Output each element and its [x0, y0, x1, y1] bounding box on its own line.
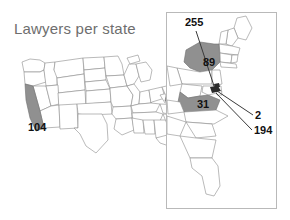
lawyers-per-state-map-figure: Lawyers per state 104 89 31 255 2 194 [0, 0, 290, 220]
label-virginia: 31 [197, 99, 209, 110]
leader-line-194 [216, 93, 252, 130]
label-california: 104 [28, 122, 46, 133]
label-pennsylvania-callout: 255 [185, 17, 203, 28]
label-delaware-callout: 2 [255, 110, 261, 121]
page-title: Lawyers per state [14, 20, 136, 37]
label-dc-maryland-callout: 194 [254, 125, 272, 136]
leader-line-2 [217, 91, 253, 115]
label-new-york: 89 [203, 57, 215, 68]
